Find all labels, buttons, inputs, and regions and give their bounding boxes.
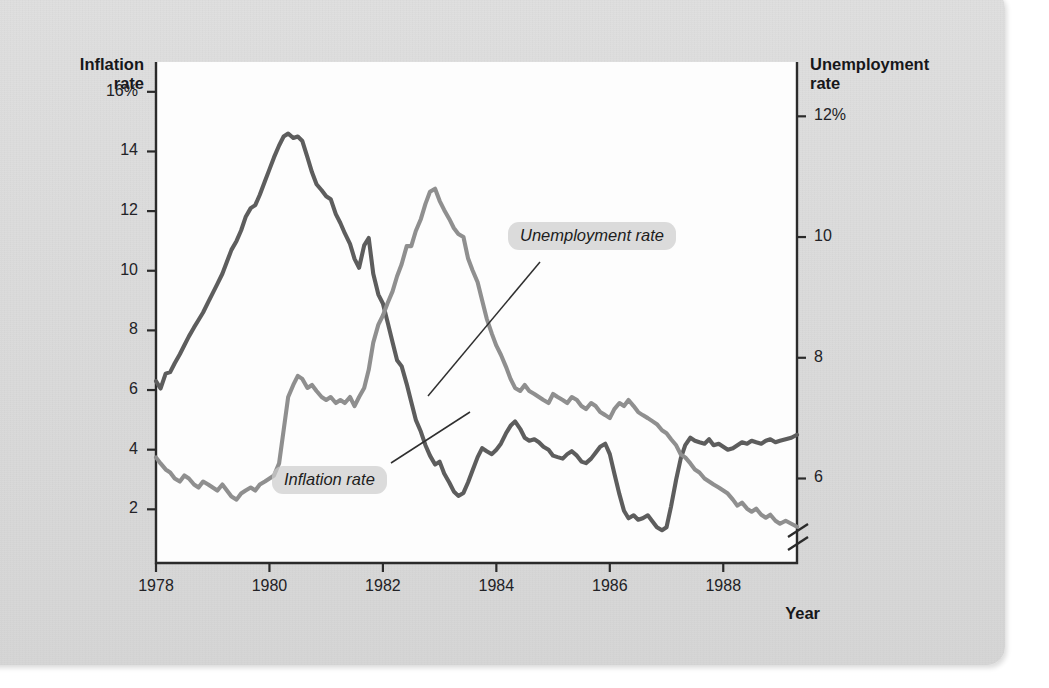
inflation-unemployment-figure: makes it impossible forto reduce inflati…	[0, 0, 1049, 688]
figure-root: makes it impossible forto reduce inflati…	[0, 0, 1049, 688]
x-axis-title: Year	[700, 604, 820, 623]
y-tick-label-4: 4	[80, 440, 138, 458]
data-series-group	[156, 134, 797, 531]
y-tick-label-8: 8	[80, 320, 138, 338]
x-tick-label-1984: 1984	[461, 577, 531, 595]
x-tick-label-1986: 1986	[575, 577, 645, 595]
y-tick-label-10: 10	[80, 261, 138, 279]
y-tick-label-16pct: 16%	[80, 82, 138, 100]
y2-tick-label-8: 8	[814, 348, 872, 366]
leader-line-unemployment	[428, 262, 540, 396]
y-tick-label-12: 12	[80, 201, 138, 219]
x-tick-label-1988: 1988	[688, 577, 758, 595]
x-tick-label-1978: 1978	[121, 577, 191, 595]
callout-unemployment-rate: Unemployment rate	[508, 222, 676, 250]
annotation-leader-lines	[391, 262, 540, 463]
series-line-unemployment-rate	[156, 189, 797, 527]
y2-tick-label-12pct: 12%	[814, 106, 872, 124]
y-tick-label-6: 6	[80, 380, 138, 398]
x-tick-label-1980: 1980	[234, 577, 304, 595]
y2-tick-label-6: 6	[814, 468, 872, 486]
y-tick-label-14: 14	[80, 141, 138, 159]
series-line-inflation-rate	[156, 134, 797, 531]
callout-inflation-rate: Inflation rate	[272, 466, 387, 494]
y-tick-label-2: 2	[80, 499, 138, 517]
y2-tick-label-10: 10	[814, 227, 872, 245]
right-axis-title: Unemployment rate	[810, 55, 985, 94]
x-tick-label-1982: 1982	[348, 577, 418, 595]
axis-ticks	[147, 92, 806, 572]
